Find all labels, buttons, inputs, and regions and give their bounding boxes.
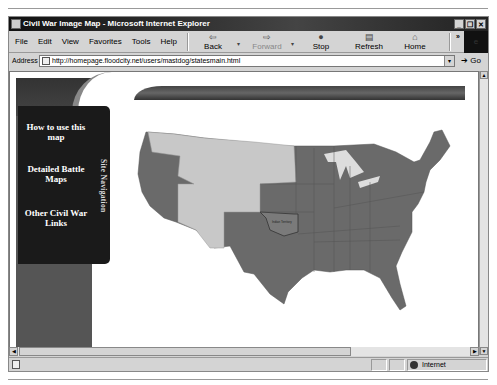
toolbar-separator [187,33,189,51]
back-button[interactable]: ⇦ Back [193,33,233,51]
header-banner [134,86,465,100]
vertical-scrollbar[interactable]: ▲ ▼ [479,71,488,355]
browser-window: Civil War Image Map - Microsoft Internet… [8,16,489,372]
menu-tools[interactable]: Tools [132,37,151,46]
close-button[interactable]: ✕ [476,19,486,29]
window-title: Civil War Image Map - Microsoft Internet… [23,19,210,28]
forward-button[interactable]: ⇨ Forward [247,33,287,51]
menu-file[interactable]: File [15,37,28,46]
page-status-icon [12,360,20,369]
address-dropdown-icon[interactable]: ▾ [444,56,454,66]
horizontal-scroll-thumb[interactable] [19,347,351,356]
go-arrow-icon: ➔ [461,56,468,65]
address-url: http://homepage.floodcity.net/users/mast… [52,57,240,64]
refresh-button[interactable]: ▤ Refresh [349,33,389,51]
scroll-left-arrow[interactable]: ◀ [9,347,18,356]
site-navigation-panel: How to use this map Detailed Battle Maps… [18,106,110,264]
address-input[interactable]: http://homepage.floodcity.net/users/mast… [39,55,455,67]
ie-throbber-logo: e [464,31,488,53]
menu-toolbar-row: File Edit View Favorites Tools Help ⇦ Ba… [9,31,488,53]
toolbar-separator [449,33,451,51]
menu-bar: File Edit View Favorites Tools Help [15,37,177,46]
horizontal-scrollbar[interactable]: ◀ ▶ [9,347,479,356]
nav-link-how-to-use[interactable]: How to use this map [18,122,94,142]
scroll-down-arrow[interactable]: ▼ [480,347,488,355]
ie-app-icon [11,19,21,29]
menu-help[interactable]: Help [160,37,176,46]
minimize-button[interactable]: _ [454,19,464,29]
us-image-map[interactable]: Indian Territory [134,122,468,330]
scroll-right-arrow[interactable]: ▶ [470,347,479,356]
indian-territory-label: Indian Territory [272,220,292,224]
page-icon [42,57,50,65]
title-bar: Civil War Image Map - Microsoft Internet… [9,17,488,31]
page-viewport: How to use this map Detailed Battle Maps… [9,71,479,355]
globe-icon [410,361,418,369]
security-zone: Internet [407,359,487,371]
menu-view[interactable]: View [62,37,79,46]
back-dropdown-icon[interactable]: ▾ [237,40,240,47]
address-bar: Address http://homepage.floodcity.net/us… [9,54,488,68]
go-button[interactable]: ➔ Go [461,56,481,65]
nav-link-other-links[interactable]: Other Civil War Links [18,208,94,228]
stop-button[interactable]: ● Stop [301,33,341,51]
scroll-up-arrow[interactable]: ▲ [480,71,488,79]
home-button[interactable]: ⌂ Home [395,33,435,51]
forward-arrow-icon: ⇨ [247,33,287,42]
refresh-icon: ▤ [349,33,389,42]
bottom-rule [8,379,488,380]
home-icon: ⌂ [395,33,435,42]
menu-edit[interactable]: Edit [38,37,52,46]
stop-icon: ● [301,33,341,42]
site-navigation-label: Site Navigation [98,116,108,256]
toolbar-more-chevron[interactable]: » [456,33,460,40]
status-bar: Internet [9,357,488,371]
nav-link-battle-maps[interactable]: Detailed Battle Maps [18,164,94,184]
maximize-button[interactable]: ❐ [465,19,475,29]
forward-dropdown-icon[interactable]: ▾ [291,40,294,47]
back-arrow-icon: ⇦ [193,33,233,42]
menu-favorites[interactable]: Favorites [89,37,122,46]
address-label: Address [12,57,38,64]
top-rule [8,8,488,9]
